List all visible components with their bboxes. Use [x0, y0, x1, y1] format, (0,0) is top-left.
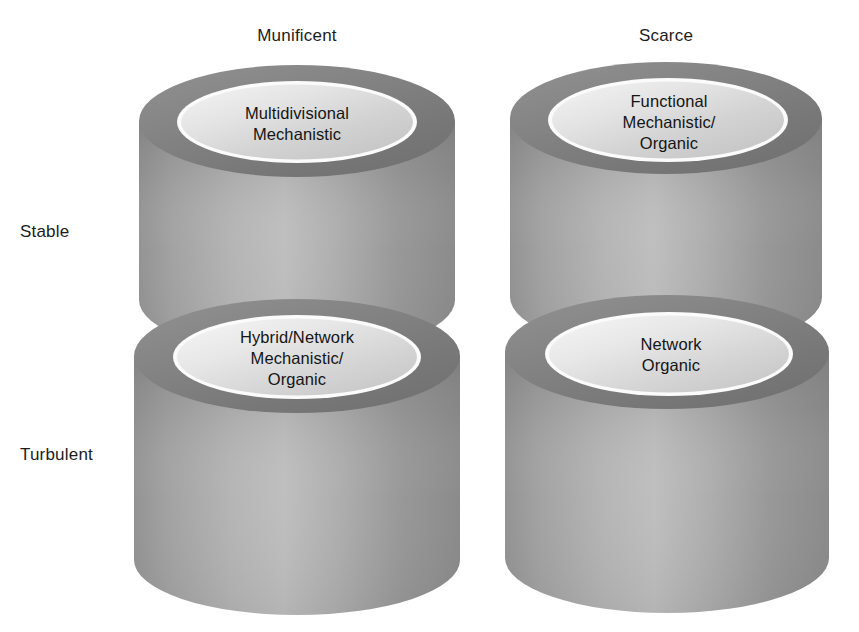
row-label-stable: Stable	[20, 222, 69, 242]
cylinder-group-scarce	[505, 62, 829, 613]
column-header-scarce: Scarce	[639, 26, 693, 46]
cylinder-top-face	[552, 82, 784, 159]
cylinder-top-face	[177, 319, 417, 396]
cylinder-top-face	[181, 85, 413, 160]
cylinder-group-munificent	[134, 65, 460, 615]
cylinder-top-face	[549, 316, 789, 393]
diagram-root: Munificent Scarce Stable Turbulent Multi…	[0, 0, 859, 632]
cylinder-matrix-canvas	[0, 0, 859, 632]
row-label-turbulent: Turbulent	[20, 445, 93, 465]
cylinder-turbulent-munificent	[134, 299, 460, 615]
cylinder-turbulent-scarce	[505, 295, 829, 613]
column-header-munificent: Munificent	[257, 26, 336, 46]
